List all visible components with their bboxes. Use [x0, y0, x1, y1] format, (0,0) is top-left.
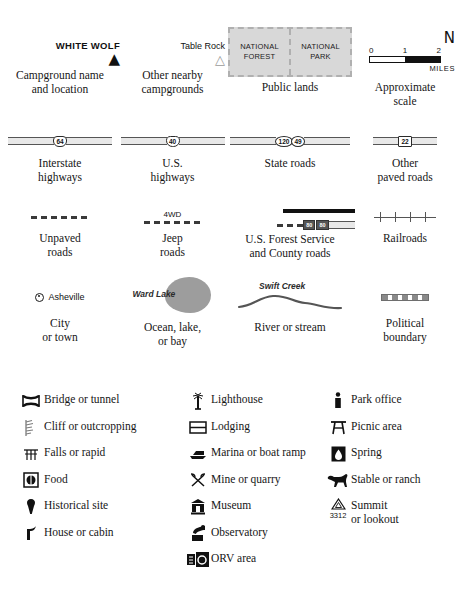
- symbol-label: Mine or quarry: [211, 472, 281, 487]
- interstate-line-right: [66, 137, 112, 145]
- symbol-label: Spring: [351, 445, 382, 460]
- river-caption: River or stream: [225, 321, 355, 335]
- symbol-label: Marina or boat ramp: [211, 445, 306, 460]
- unpaved-road-line: [31, 216, 89, 219]
- forest-service-dash-left: [277, 224, 303, 227]
- observatory-icon: [185, 525, 211, 542]
- historical-site-icon: [18, 498, 44, 515]
- railroads-symbol: [355, 205, 455, 229]
- picnic-area-icon: [325, 419, 351, 436]
- symbol-row-stable-or-ranch: Stable or ranch: [325, 472, 455, 491]
- forest-service-badge-primary: 80: [303, 220, 315, 230]
- symbol-label: ORV area: [211, 551, 256, 566]
- national-park-line1: NATIONAL: [301, 42, 340, 52]
- forest-service-symbol: 80 80: [225, 196, 355, 230]
- city-caption: City or town: [0, 317, 120, 344]
- stable-or-ranch-icon: [325, 472, 351, 489]
- jeep-label: 4WD: [164, 210, 182, 219]
- railroad-tick: [410, 212, 411, 222]
- lodging-icon: [185, 419, 211, 436]
- museum-icon: [185, 498, 211, 515]
- legend-entry-forest-service: 80 80 U.S. Forest Service and County roa…: [225, 196, 355, 260]
- jeep-road-group: 4WD: [144, 210, 202, 224]
- national-forest-line2: FOREST: [244, 52, 276, 62]
- city-dot-icon: [35, 293, 44, 302]
- symbol-row-mine-or-quarry: Mine or quarry: [185, 472, 330, 491]
- symbol-row-marina-or-boat-ramp: Marina or boat ramp: [185, 445, 330, 464]
- symbol-row-orv-area: ORV area: [185, 551, 330, 570]
- scale-segment-empty: [370, 57, 405, 62]
- water-body-symbol: Ward Lake: [120, 274, 225, 318]
- unpaved-symbol: [0, 205, 120, 229]
- symbol-row-bridge-or-tunnel: Bridge or tunnel: [18, 392, 178, 411]
- us-highway-caption: U.S. highways: [120, 157, 225, 184]
- interstate-line-left: [8, 137, 54, 145]
- scale-segment-filled: [405, 57, 440, 62]
- public-lands-swatch: NATIONAL FOREST NATIONAL PARK: [228, 27, 352, 77]
- unpaved-caption: Unpaved roads: [0, 232, 120, 259]
- park-office-icon: [325, 392, 351, 409]
- legend-entry-scale: N 0 1 2 MILES Approximate scale: [355, 26, 455, 108]
- other-paved-shield: 22: [398, 136, 412, 147]
- state-road-shield-secondary: 49: [291, 136, 305, 147]
- symbol-row-picnic-area: Picnic area: [325, 419, 455, 438]
- interstate-caption: Interstate highways: [0, 157, 120, 184]
- symbol-row-park-office: Park office: [325, 392, 455, 411]
- us-highway-road-line: 40: [121, 136, 225, 147]
- symbol-label: Lighthouse: [211, 392, 263, 407]
- interstate-shield: 64: [53, 136, 67, 147]
- interstate-symbol: 64: [0, 128, 120, 154]
- symbol-row-lighthouse: Lighthouse: [185, 392, 330, 411]
- political-boundary-symbol: [355, 280, 455, 314]
- symbol-label: Picnic area: [351, 419, 402, 434]
- scale-tick-0: 0: [369, 46, 373, 55]
- summit-elevation: 3312: [330, 511, 347, 520]
- symbol-column-3: Park office Picnic area: [325, 392, 455, 534]
- jeep-symbol: 4WD: [120, 205, 225, 229]
- legend-entry-campground-primary: WHITE WOLF ▲ Campground name and locatio…: [0, 28, 120, 96]
- legend-entry-us-highway: 40 U.S. highways: [120, 128, 225, 184]
- state-roads-line-left: [230, 137, 276, 145]
- symbol-label: House or cabin: [44, 525, 114, 540]
- house-or-cabin-icon: [18, 525, 44, 542]
- political-boundary-caption: Political boundary: [355, 317, 455, 344]
- us-highway-shield: 40: [166, 136, 180, 147]
- city-name: Asheville: [48, 292, 84, 302]
- national-park-swatch: NATIONAL PARK: [291, 29, 350, 75]
- legend-entry-other-paved: 22 Other paved roads: [355, 128, 455, 184]
- railroad-tick: [380, 212, 381, 222]
- symbol-label: Bridge or tunnel: [44, 392, 119, 407]
- national-forest-swatch: NATIONAL FOREST: [230, 29, 291, 75]
- symbol-row-historical-site: Historical site: [18, 498, 178, 517]
- legend-entry-unpaved: Unpaved roads: [0, 205, 120, 259]
- campground-other-symbol: Table Rock △: [120, 28, 225, 66]
- symbol-row-falls-or-rapid: Falls or rapid: [18, 445, 178, 464]
- forest-service-line-right: [329, 221, 355, 229]
- summit-or-lookout-icon: 3312: [325, 498, 351, 520]
- lighthouse-icon: [185, 392, 211, 410]
- campground-other-caption: Other nearby campgrounds: [120, 69, 225, 96]
- campground-other-name: Table Rock: [180, 41, 225, 51]
- symbol-label: Falls or rapid: [44, 445, 105, 460]
- orv-area-icon: [185, 551, 211, 568]
- symbol-label: Observatory: [211, 525, 268, 540]
- public-lands-symbol: NATIONAL FOREST NATIONAL PARK: [225, 26, 355, 78]
- scale-symbol: N 0 1 2 MILES: [355, 26, 455, 78]
- symbol-column-1: Bridge or tunnel Cliff or outcropping: [18, 392, 178, 551]
- legend-entry-public-lands: NATIONAL FOREST NATIONAL PARK Public lan…: [225, 26, 355, 95]
- legend-entry-city: Asheville City or town: [0, 280, 120, 344]
- symbol-label: Food: [44, 472, 68, 487]
- us-highway-line-right: [179, 137, 225, 145]
- other-paved-symbol: 22: [355, 128, 455, 154]
- spring-icon: [325, 445, 351, 462]
- forest-service-badge-secondary: 80: [316, 220, 328, 230]
- public-lands-caption: Public lands: [225, 81, 355, 95]
- symbol-label: Stable or ranch: [351, 472, 421, 487]
- legend-entry-river: Swift Creek River or stream: [225, 274, 355, 335]
- legend-entry-jeep: 4WD Jeep roads: [120, 205, 225, 259]
- legend-entry-water-body: Ward Lake Ocean, lake, or bay: [120, 274, 225, 348]
- falls-or-rapid-icon: [18, 445, 44, 462]
- symbol-row-food: Food: [18, 472, 178, 491]
- jeep-road-line: [144, 221, 202, 224]
- railroad-line: [374, 211, 436, 223]
